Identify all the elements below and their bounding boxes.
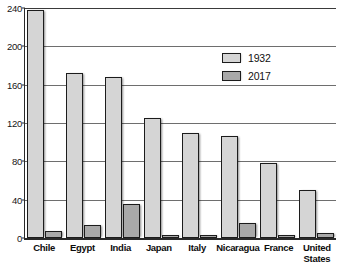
bar-groups [25,8,336,238]
y-tick-mark [22,123,25,124]
x-label-line1: Egypt [70,242,95,253]
x-label-line1: United [303,242,331,253]
y-tick-mark [22,161,25,162]
x-label-line1: Nicaragua [216,242,259,253]
bar-chile-2017[interactable] [45,231,62,238]
x-label-line1: Chile [33,242,55,253]
bar-chart: 0 40 80 120 160 200 240 [0,0,339,271]
bar-group-egypt [64,8,103,238]
x-label-united-states: United States [298,242,336,264]
x-label-japan: Japan [140,242,178,264]
bar-france-1932[interactable] [260,163,277,238]
bar-nicaragua-2017[interactable] [239,223,256,238]
bar-egypt-1932[interactable] [66,73,83,238]
bar-group-france [258,8,297,238]
x-label-line1: Japan [146,242,172,253]
y-tick-label: 200 [0,41,22,52]
y-tick-label: 160 [0,79,22,90]
y-tick-mark [22,84,25,85]
bar-group-united-states [297,8,336,238]
y-tick-label: 120 [0,118,22,129]
bar-india-2017[interactable] [123,204,140,239]
bar-group-japan [142,8,181,238]
x-label-egypt: Egypt [63,242,101,264]
x-label-india: India [102,242,140,264]
bar-india-1932[interactable] [105,77,122,238]
x-label-line2: States [298,253,336,264]
x-label-chile: Chile [25,242,63,264]
y-tick-label: 80 [0,156,22,167]
legend-item-1932[interactable]: 1932 [222,50,271,65]
x-label-nicaragua: Nicaragua [216,242,259,264]
legend-label-2017: 2017 [248,70,271,82]
bar-italy-1932[interactable] [182,133,199,238]
legend-swatch-2017 [222,71,241,81]
bar-chile-1932[interactable] [27,10,44,238]
x-label-line1: Italy [188,242,206,253]
x-label-france: France [260,242,298,264]
y-tick-mark [22,46,25,47]
legend-label-1932: 1932 [248,52,271,64]
bar-group-chile [25,8,64,238]
bar-group-nicaragua [219,8,258,238]
y-tick-mark [22,238,25,239]
x-axis-line [24,238,336,240]
x-axis-labels: Chile Egypt India Japan Italy Nicaragua … [25,242,336,264]
y-axis-line [24,8,25,240]
bar-group-india [103,8,142,238]
x-label-italy: Italy [178,242,216,264]
bar-egypt-2017[interactable] [84,225,101,238]
y-tick-label: 240 [0,3,22,14]
bar-united-states-1932[interactable] [299,190,316,238]
y-tick-label: 0 [0,233,22,244]
bar-nicaragua-1932[interactable] [221,136,238,239]
chart-legend: 1932 2017 [222,50,271,86]
y-tick-label: 40 [0,194,22,205]
legend-swatch-1932 [222,53,241,63]
x-label-line1: France [264,242,293,253]
legend-item-2017[interactable]: 2017 [222,68,271,83]
y-tick-mark [22,8,25,9]
y-tick-mark [22,199,25,200]
bar-group-italy [181,8,220,238]
x-label-line1: India [110,242,131,253]
bar-japan-1932[interactable] [144,118,161,238]
